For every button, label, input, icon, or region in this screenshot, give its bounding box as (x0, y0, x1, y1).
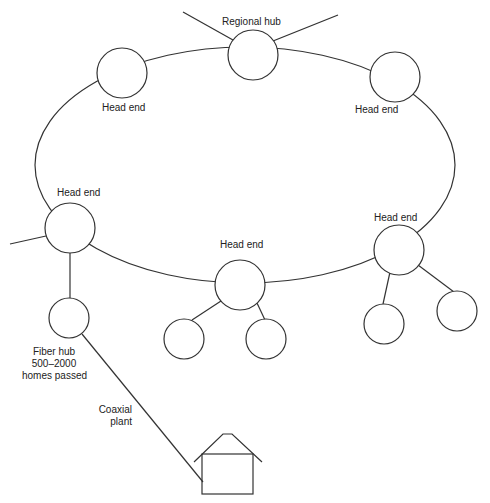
head-end-bottom-spur-left (192, 301, 221, 320)
head-end-right-node (374, 225, 424, 275)
coaxial-plant-label: Coaxial plant (96, 404, 132, 428)
head-end-left-node (45, 203, 95, 253)
head-end-bottom-spur-right (257, 303, 265, 320)
diagram-graphics (0, 0, 490, 503)
regional-hub-label: Regional hub (222, 16, 281, 28)
fiber-hub-node-bottom-left (164, 319, 204, 359)
head-end-bottom-node (215, 260, 265, 310)
fiber-hub-label-line-2: 500–2000 (22, 358, 86, 370)
house-icon (194, 434, 262, 494)
regional-hub-node (228, 30, 278, 80)
fiber-hub-label-line-1: Fiber hub (22, 346, 86, 358)
regional-hub-link-right (273, 15, 338, 41)
head-end-top-left-label: Head end (102, 102, 145, 114)
head-end-top-right-node (370, 52, 420, 102)
coaxial-plant-label-line-1: Coaxial (96, 404, 132, 416)
head-end-right-spur-left (383, 272, 390, 304)
network-diagram: Regional hub Head end Head end Head end … (0, 0, 490, 503)
head-end-right-spur-right (418, 265, 454, 292)
fiber-hub-label: Fiber hub 500–2000 homes passed (22, 346, 86, 382)
fiber-hub-label-line-3: homes passed (22, 370, 86, 382)
fiber-hub-node-right-left (364, 304, 404, 344)
fiber-hub-node (49, 298, 89, 338)
fiber-hub-node-bottom-right (246, 319, 286, 359)
head-end-top-right-label: Head end (355, 104, 398, 116)
coaxial-plant-label-line-2: plant (96, 416, 132, 428)
head-end-top-left-node (97, 48, 147, 98)
head-end-bottom-label: Head end (220, 239, 263, 251)
head-end-right-label: Head end (374, 212, 417, 224)
head-end-left-external-link (10, 236, 46, 244)
fiber-hub-node-right-right (437, 291, 477, 331)
head-end-left-label: Head end (57, 187, 100, 199)
